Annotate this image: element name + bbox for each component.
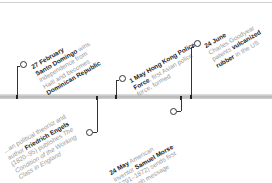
tick-marker — [190, 95, 192, 99]
connector-line — [17, 66, 18, 95]
event-dot-icon — [86, 129, 93, 136]
event-text: 24 May American inventor Samuel Morse (1… — [108, 136, 182, 183]
event-dot-icon — [194, 40, 201, 47]
event-dot-icon — [20, 61, 27, 68]
top-border — [0, 2, 272, 3]
connector-line — [181, 99, 182, 111]
tick-marker — [16, 95, 18, 99]
connector-line — [116, 80, 117, 95]
connector-line — [93, 132, 97, 133]
tick-marker — [115, 95, 117, 99]
timeline-bar — [0, 94, 272, 99]
event-text: 24 June Charles Goodyear patents vulcani… — [203, 15, 266, 69]
event-dot-icon — [170, 108, 177, 115]
connector-line — [191, 47, 194, 48]
connector-line — [177, 111, 181, 112]
connector-line — [191, 47, 192, 95]
event-text: ...an political theorist and author Frie… — [2, 113, 82, 181]
event-text: 1 May Hong Kong Police Force, first Asia… — [128, 41, 204, 98]
connector-line — [97, 99, 98, 132]
event-text: 27 February Santo Domingo wins independe… — [30, 33, 102, 97]
event-dot-icon — [119, 75, 126, 82]
